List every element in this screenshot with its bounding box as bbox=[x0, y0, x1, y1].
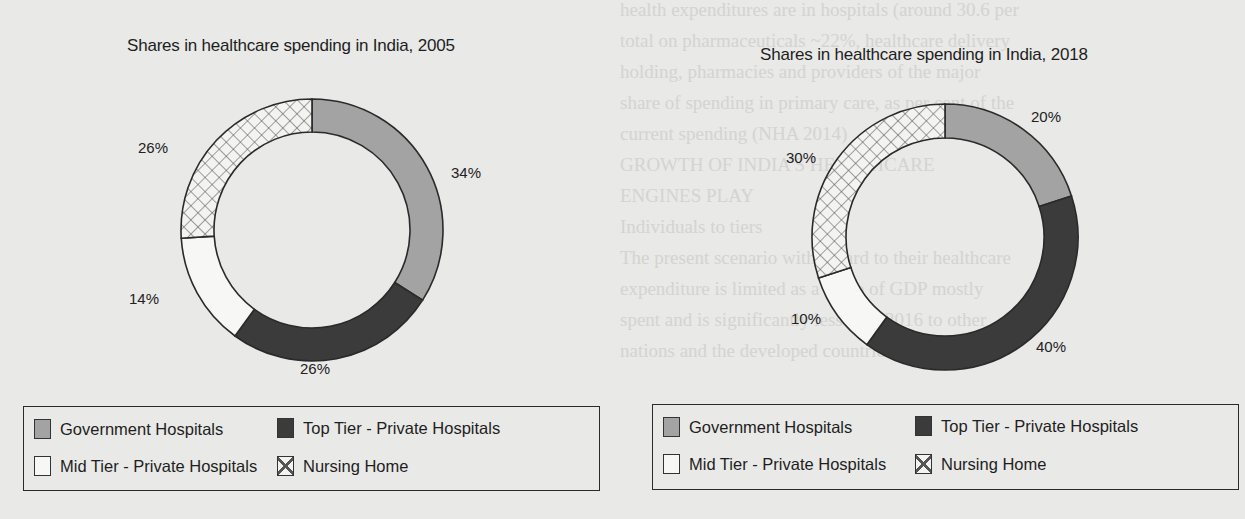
legend-item-mid-tier: Mid Tier - Private Hospitals bbox=[34, 456, 257, 476]
legend-2005: Government Hospitals Top Tier - Private … bbox=[23, 406, 600, 491]
swatch-nursing-home bbox=[277, 456, 294, 476]
legend-2018: Government Hospitals Top Tier - Private … bbox=[652, 404, 1239, 490]
label-2018-government: 20% bbox=[1031, 108, 1061, 125]
segment-nursing-home bbox=[812, 104, 945, 278]
swatch-mid-tier bbox=[34, 456, 51, 476]
legend-item-nursing-home: Nursing Home bbox=[277, 456, 408, 476]
label-2018-nursing-home: 30% bbox=[786, 149, 816, 166]
swatch-government bbox=[34, 419, 51, 439]
legend-label: Mid Tier - Private Hospitals bbox=[60, 457, 257, 476]
swatch-mid-tier bbox=[663, 454, 680, 474]
legend-label: Nursing Home bbox=[303, 457, 408, 476]
swatch-top-tier bbox=[277, 418, 294, 438]
legend-item-mid-tier: Mid Tier - Private Hospitals bbox=[663, 454, 886, 474]
segment-mid-tier bbox=[181, 236, 254, 336]
legend-item-government: Government Hospitals bbox=[34, 419, 223, 439]
label-2005-government: 34% bbox=[451, 164, 481, 181]
swatch-top-tier bbox=[915, 416, 932, 436]
swatch-government bbox=[663, 417, 680, 437]
segment-top-tier bbox=[235, 283, 423, 361]
legend-label: Top Tier - Private Hospitals bbox=[303, 419, 500, 438]
label-2005-nursing-home: 26% bbox=[138, 139, 168, 156]
swatch-nursing-home bbox=[915, 454, 932, 474]
legend-label: Top Tier - Private Hospitals bbox=[941, 417, 1138, 436]
label-2018-mid-tier: 10% bbox=[791, 310, 821, 327]
legend-label: Government Hospitals bbox=[60, 420, 223, 439]
legend-item-nursing-home: Nursing Home bbox=[915, 454, 1046, 474]
segment-nursing-home bbox=[181, 99, 312, 238]
segment-government bbox=[312, 99, 443, 300]
legend-label: Nursing Home bbox=[941, 455, 1046, 474]
legend-item-top-tier: Top Tier - Private Hospitals bbox=[915, 416, 1138, 436]
donut-2018 bbox=[812, 104, 1078, 370]
label-2005-mid-tier: 14% bbox=[129, 290, 159, 307]
donut-2005 bbox=[181, 99, 443, 361]
legend-label: Government Hospitals bbox=[689, 418, 852, 437]
label-2018-top-tier: 40% bbox=[1036, 338, 1066, 355]
label-2005-top-tier: 26% bbox=[300, 360, 330, 377]
legend-label: Mid Tier - Private Hospitals bbox=[689, 455, 886, 474]
legend-item-government: Government Hospitals bbox=[663, 417, 852, 437]
legend-item-top-tier: Top Tier - Private Hospitals bbox=[277, 418, 500, 438]
chart-title-2018: Shares in healthcare spending in India, … bbox=[760, 45, 1088, 65]
